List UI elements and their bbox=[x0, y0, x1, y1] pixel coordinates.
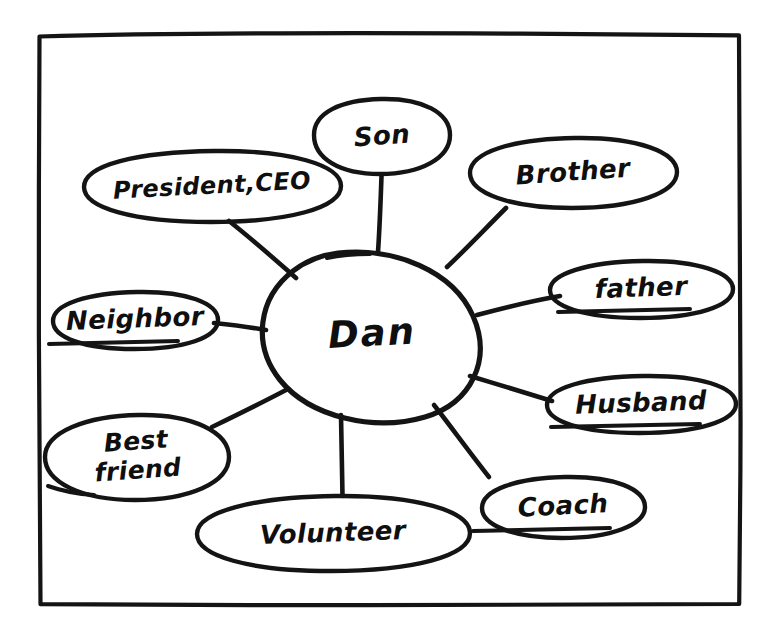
connector-dan-neighbor bbox=[214, 323, 266, 330]
node-shape-coach-underline bbox=[473, 528, 610, 531]
node-shape-neighbor-underline bbox=[49, 341, 178, 344]
connector-dan-president-ceo bbox=[229, 221, 296, 278]
connector-dan-volunteer bbox=[341, 415, 343, 496]
node-shape-brother bbox=[470, 138, 677, 208]
mind-map-canvas: Dan Son President,CEO Brother father Hus… bbox=[0, 0, 773, 638]
node-shape-volunteer bbox=[197, 496, 470, 571]
node-shape-president-ceo bbox=[84, 151, 341, 222]
connector-dan-husband bbox=[470, 376, 552, 401]
node-shape-best-friend bbox=[45, 415, 229, 500]
connector-dan-best-friend bbox=[212, 390, 286, 427]
connector-dan-coach bbox=[434, 405, 489, 477]
connector-dan-brother bbox=[447, 208, 506, 267]
connector-dan-father bbox=[477, 296, 560, 315]
node-shape-son bbox=[314, 99, 450, 174]
mind-map-sketch-layer bbox=[0, 0, 773, 638]
connector-dan-son bbox=[378, 176, 382, 252]
